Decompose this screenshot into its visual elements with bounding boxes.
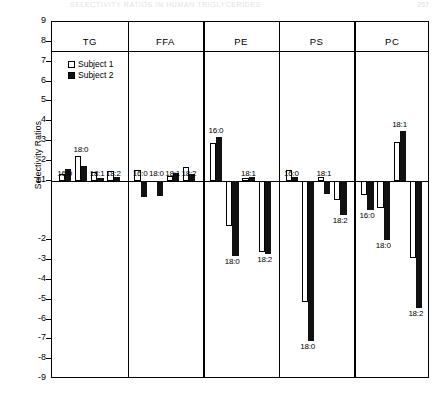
bar-ps-18-1-s2: [324, 181, 330, 194]
y-tick-mark: [46, 41, 51, 42]
bar-pe-16-0-s2: [216, 137, 222, 181]
y-tick-mark: [46, 100, 51, 101]
panel-divider: [279, 22, 280, 377]
y-tick-label: -8: [38, 353, 46, 362]
y-tick-label: ±1: [36, 175, 46, 184]
legend-label: Subject 1: [78, 59, 113, 70]
bar-ps-18-2-s2: [340, 181, 346, 216]
y-tick-label: -6: [38, 314, 46, 323]
legend-item-subject-1: Subject 1: [68, 59, 113, 70]
panel-title-ffa: FFA: [128, 36, 204, 47]
bar-ps-18-0-s2: [308, 181, 314, 342]
y-tick-label: 9: [41, 16, 46, 25]
running-head: SELECTIVITY RATIOS IN HUMAN TRIGLYCERIDE…: [70, 1, 370, 9]
bar-group-label: 16:0: [133, 169, 148, 178]
figure-page: SELECTIVITY RATIOS IN HUMAN TRIGLYCERIDE…: [0, 0, 437, 404]
legend: Subject 1 Subject 2: [68, 59, 113, 81]
legend-swatch-open: [68, 61, 75, 68]
bar-group-label: 16:0: [57, 169, 72, 178]
y-tick-mark: [46, 140, 51, 141]
y-axis-ticks: 98765432±1-2-3-4-5-6-7-8-9: [24, 0, 46, 404]
panel-title-tg: TG: [52, 36, 128, 47]
y-tick-mark: [46, 358, 51, 359]
bar-group-label: 18:2: [257, 255, 272, 264]
bar-group-label: 18:2: [182, 169, 197, 178]
bar-group-label: 18:0: [300, 342, 315, 351]
y-tick-mark: [46, 259, 51, 260]
bar-group-label: 18:0: [149, 169, 164, 178]
bar-group-label: 16:0: [284, 169, 299, 178]
y-tick-mark: [46, 239, 51, 240]
bar-group-label: 18:1: [165, 169, 180, 178]
bar-group-label: 16:0: [360, 211, 375, 220]
y-tick-mark: [46, 81, 51, 82]
panel-header-divider: [52, 51, 428, 52]
y-tick-mark: [46, 299, 51, 300]
y-tick-mark: [46, 120, 51, 121]
bar-group-label: 18:2: [333, 216, 348, 225]
y-tick-mark: [46, 160, 51, 161]
bar-pc-18-1-s2: [400, 131, 406, 181]
bar-group-label: 16:0: [208, 126, 223, 135]
y-tick-mark: [46, 61, 51, 62]
bar-group-label: 18:1: [241, 169, 256, 178]
y-tick-mark: [46, 338, 51, 339]
panel-divider: [203, 22, 204, 377]
bar-group-label: 18:1: [392, 120, 407, 129]
panel-divider: [354, 22, 355, 377]
y-tick-label: -9: [38, 373, 46, 382]
y-tick-label: -7: [38, 333, 46, 342]
y-tick-label: -5: [38, 294, 46, 303]
y-tick-label: -3: [38, 254, 46, 263]
page-number: 267: [417, 1, 429, 8]
y-tick-mark: [46, 180, 51, 181]
bar-tg-18-1-s2: [97, 178, 103, 181]
bar-group-label: 18:2: [408, 309, 423, 318]
bar-group-label: 18:1: [317, 169, 332, 178]
panel-title-pc: PC: [354, 36, 430, 47]
bar-pe-18-0-s2: [232, 181, 238, 256]
bar-pc-16-0-s2: [367, 181, 373, 211]
bar-pc-18-0-s2: [384, 181, 390, 241]
legend-item-subject-2: Subject 2: [68, 70, 113, 81]
bar-pe-18-2-s2: [265, 181, 271, 254]
panel-divider: [128, 22, 129, 377]
bar-group-label: 18:0: [73, 145, 88, 154]
bar-group-label: 18:2: [106, 169, 121, 178]
y-tick-label: -2: [38, 234, 46, 243]
bar-group-label: 18:0: [225, 257, 240, 266]
bar-ffa-18-0-s2: [157, 181, 163, 196]
y-tick-label: -4: [38, 274, 46, 283]
bar-group-label: 18:1: [90, 169, 105, 178]
legend-swatch-filled: [68, 72, 75, 79]
bar-ffa-16-0-s2: [141, 181, 147, 197]
bar-tg-18-0-s2: [81, 166, 87, 181]
panel-title-ps: PS: [279, 36, 355, 47]
bar-group-label: 18:0: [376, 241, 391, 250]
bar-pc-18-2-s2: [416, 181, 422, 308]
legend-label: Subject 2: [78, 70, 113, 81]
y-tick-mark: [46, 279, 51, 280]
panel-title-pe: PE: [203, 36, 279, 47]
y-tick-mark: [46, 319, 51, 320]
